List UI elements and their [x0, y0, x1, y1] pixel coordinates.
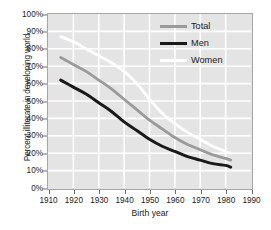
x-tick-mark: [226, 190, 227, 194]
y-tick-mark: [42, 84, 47, 85]
illiteracy-line-chart: Percent illiterate in developing world 0…: [0, 0, 271, 230]
y-tick-mark: [42, 153, 47, 154]
legend-label-women: Women: [191, 53, 223, 67]
legend-swatch-men: [160, 42, 187, 45]
y-tick-label: 50%: [12, 97, 43, 105]
legend-label-men: Men: [191, 36, 209, 50]
x-tick-mark: [49, 190, 50, 194]
y-tick-label: 10%: [12, 167, 43, 175]
legend-item-women: Women: [160, 53, 246, 67]
y-tick-mark: [42, 31, 47, 32]
y-tick-label: 0%: [12, 184, 43, 192]
legend-swatch-women: [160, 59, 187, 62]
x-tick-mark: [125, 190, 126, 194]
x-tick-mark: [175, 190, 176, 194]
y-tick-label: 40%: [12, 115, 43, 123]
x-tick-mark: [74, 190, 75, 194]
x-tick-mark: [201, 190, 202, 194]
y-tick-mark: [42, 188, 47, 189]
legend-item-total: Total: [160, 19, 246, 33]
legend-item-men: Men: [160, 36, 246, 50]
y-tick-mark: [42, 49, 47, 50]
y-tick-label: 20%: [12, 150, 43, 158]
x-tick-mark: [99, 190, 100, 194]
y-tick-label: 100%: [12, 10, 43, 18]
y-tick-mark: [42, 66, 47, 67]
x-tick-mark: [252, 190, 253, 194]
x-tick-mark: [150, 190, 151, 194]
y-tick-mark: [42, 101, 47, 102]
x-tick-label: 1990: [235, 196, 269, 205]
legend-label-total: Total: [191, 19, 210, 33]
y-tick-mark: [42, 136, 47, 137]
x-axis-title: Birth year: [47, 208, 253, 218]
legend-swatch-total: [160, 25, 187, 28]
y-tick-label: 30%: [12, 132, 43, 140]
y-tick-label: 70%: [12, 63, 43, 71]
y-tick-mark: [42, 14, 47, 15]
y-tick-label: 60%: [12, 80, 43, 88]
y-tick-mark: [42, 171, 47, 172]
y-tick-label: 90%: [12, 28, 43, 36]
x-axis-tick-labels: 191019201930194019501960197019801990: [0, 196, 271, 208]
y-tick-mark: [42, 118, 47, 119]
y-tick-label: 80%: [12, 45, 43, 53]
chart-legend: TotalMenWomen: [160, 19, 246, 75]
